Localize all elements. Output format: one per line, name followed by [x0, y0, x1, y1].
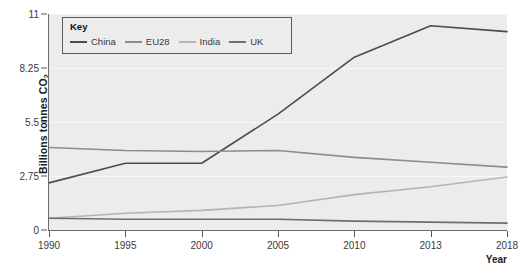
x-tick-mark [507, 231, 508, 237]
legend: Key ChinaEU28IndiaUK [62, 17, 292, 54]
legend-item-india[interactable]: India [179, 36, 221, 47]
legend-swatch-icon [179, 41, 196, 43]
x-tick-label: 2013 [420, 240, 442, 251]
x-tick-mark [125, 231, 126, 237]
x-tick-mark [278, 231, 279, 237]
x-tick-label: 2010 [343, 240, 365, 251]
x-tick-mark [354, 231, 355, 237]
x-tick-label: 2000 [191, 240, 213, 251]
x-tick-label: 1995 [114, 240, 136, 251]
x-tick-mark [202, 231, 203, 237]
x-tick-mark [49, 231, 50, 237]
legend-title: Key [70, 21, 285, 33]
legend-item-china[interactable]: China [70, 36, 116, 47]
legend-label: India [200, 36, 221, 47]
x-tick-mark [431, 231, 432, 237]
legend-items: ChinaEU28IndiaUK [70, 36, 285, 47]
x-axis-title: Year [486, 254, 507, 265]
legend-swatch-icon [70, 41, 87, 43]
legend-label: China [91, 36, 116, 47]
legend-label: EU28 [146, 36, 170, 47]
x-tick-label: 1990 [38, 240, 60, 251]
legend-label: UK [250, 36, 263, 47]
legend-item-uk[interactable]: UK [229, 36, 263, 47]
x-tick-label: 2018 [496, 240, 518, 251]
legend-swatch-icon [125, 41, 142, 43]
legend-item-eu28[interactable]: EU28 [125, 36, 170, 47]
x-tick-label: 2005 [267, 240, 289, 251]
legend-swatch-icon [229, 41, 246, 43]
